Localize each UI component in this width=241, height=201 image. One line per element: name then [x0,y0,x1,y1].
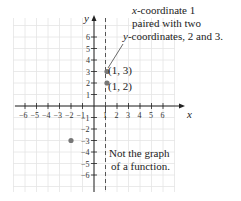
x-axis-arrow-icon [179,104,185,109]
x-tick-label: −5 [31,110,40,122]
y-tick-label: 3 [86,67,90,79]
x-tick-label: 5 [149,110,153,122]
y-tick-label: −1 [81,113,90,125]
note-not-function-line-2: of a function. [111,160,170,172]
y-tick-label: 5 [86,44,90,56]
x-tick-label: 3 [126,110,130,122]
x-tick-label: −6 [19,110,28,122]
y-tick-label: −6 [81,170,90,182]
y-tick-label: −2 [81,124,90,136]
y-tick-label: 4 [86,55,90,67]
data-point [68,138,73,143]
y-tick-label: 2 [86,78,90,90]
x-tick-label: 1 [103,110,107,122]
annotation-line-3: y-coordinates, 2 and 3. [123,30,223,42]
y-axis-arrow-icon [92,15,97,21]
y-tick-label: −4 [81,147,90,159]
y-tick-label: 1 [86,90,90,102]
point-label-1-3: (1, 3) [108,64,132,76]
point-label-1-2: (1, 2) [108,80,132,92]
y-tick-label: 6 [86,32,90,44]
y-axis-label: y [84,12,89,24]
x-tick-label: −3 [54,110,63,122]
x-tick-label: 4 [138,110,142,122]
x-tick-label: 6 [161,110,165,122]
annotation-line-2: paired with two [132,17,201,29]
x-tick-label: 2 [115,110,119,122]
function-graph-figure: −6−5−4−3−2−1123456654321−1−2−3−4−5−6 y x… [0,0,241,201]
note-not-function-line-1: Not the graph [109,147,169,159]
annotation-line-1: x-coordinate 1 [132,4,195,16]
y-tick-label: −5 [81,159,90,171]
y-tick-label: −3 [81,136,90,148]
x-tick-label: −2 [65,110,74,122]
x-tick-label: −4 [42,110,51,122]
x-axis-label: x [187,108,192,120]
